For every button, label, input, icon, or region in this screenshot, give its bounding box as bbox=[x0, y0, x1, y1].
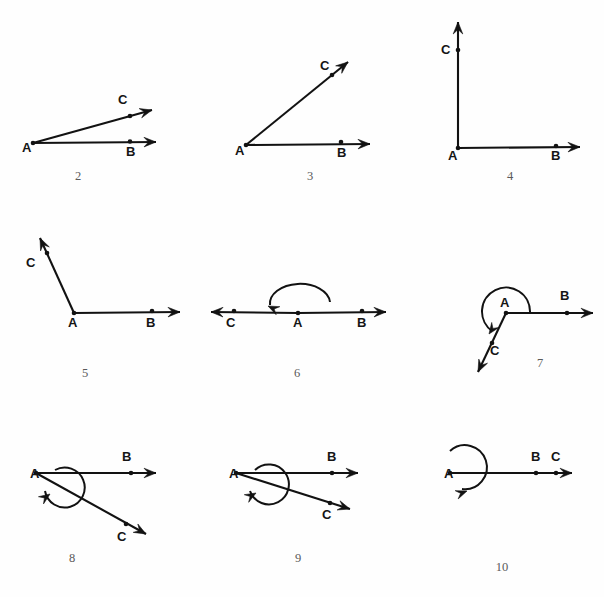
figure-2: BCA2 bbox=[22, 92, 156, 183]
point-C-dot bbox=[124, 522, 129, 527]
figure-7: BCA7 bbox=[478, 288, 593, 372]
label-point-B: B bbox=[357, 315, 366, 330]
label-vertex-A: A bbox=[30, 466, 40, 481]
label-point-B: B bbox=[531, 449, 540, 464]
label-vertex-A: A bbox=[500, 295, 510, 310]
figure-number-caption: 7 bbox=[537, 356, 543, 370]
label-point-C: C bbox=[226, 315, 236, 330]
point-C-dot bbox=[554, 471, 559, 476]
label-point-C: C bbox=[26, 255, 36, 270]
label-point-C: C bbox=[322, 507, 332, 522]
worksheet-page: BCA2BCA3BCA4BCA5BCA6BCA7BCA8BCA9BCA10 bbox=[0, 0, 604, 597]
label-point-B: B bbox=[146, 315, 155, 330]
label-point-B: B bbox=[337, 145, 346, 160]
label-vertex-A: A bbox=[444, 466, 454, 481]
figure-number-caption: 4 bbox=[507, 169, 514, 183]
label-point-C: C bbox=[118, 92, 128, 107]
figure-number-caption: 9 bbox=[295, 551, 301, 565]
point-C-dot bbox=[330, 73, 335, 78]
point-C-dot bbox=[328, 501, 333, 506]
label-point-C: C bbox=[551, 449, 561, 464]
label-vertex-A: A bbox=[68, 315, 78, 330]
figure-number-caption: 6 bbox=[294, 366, 300, 380]
figure-9: BCA9 bbox=[229, 449, 358, 565]
label-vertex-A: A bbox=[22, 140, 32, 155]
ray-AC bbox=[33, 110, 152, 143]
point-C-dot bbox=[232, 309, 237, 314]
figure-3: BCA3 bbox=[235, 58, 370, 183]
ray-AB bbox=[298, 312, 386, 313]
ray-AC bbox=[236, 473, 350, 509]
ray-AB bbox=[246, 144, 370, 145]
label-vertex-A: A bbox=[293, 315, 303, 330]
label-point-C: C bbox=[490, 343, 500, 358]
label-point-B: B bbox=[560, 288, 569, 303]
label-vertex-A: A bbox=[235, 143, 245, 158]
point-B-dot bbox=[129, 471, 134, 476]
figure-number-caption: 8 bbox=[69, 551, 75, 565]
label-point-B: B bbox=[327, 449, 336, 464]
figure-number-caption: 10 bbox=[496, 560, 509, 574]
ray-AC bbox=[211, 312, 298, 313]
point-B-dot bbox=[534, 471, 539, 476]
point-B-dot bbox=[565, 311, 570, 316]
point-B-dot bbox=[339, 140, 344, 145]
full-rotation-arc-arrowhead bbox=[455, 491, 467, 499]
straight-angle-arc bbox=[270, 284, 330, 305]
point-B-dot bbox=[330, 471, 335, 476]
figures-svg: BCA2BCA3BCA4BCA5BCA6BCA7BCA8BCA9BCA10 bbox=[0, 0, 604, 597]
figure-10: BCA10 bbox=[444, 445, 572, 574]
figure-6: BCA6 bbox=[211, 284, 386, 380]
point-B-dot bbox=[360, 309, 365, 314]
full-rotation-arc bbox=[450, 445, 487, 489]
label-vertex-A: A bbox=[229, 466, 239, 481]
point-C-dot bbox=[456, 48, 461, 53]
label-point-C: C bbox=[117, 529, 127, 544]
label-point-C: C bbox=[441, 42, 451, 57]
label-point-B: B bbox=[551, 148, 560, 163]
ray-AC bbox=[40, 238, 74, 313]
ray-AB bbox=[33, 142, 156, 143]
point-C-dot bbox=[45, 251, 50, 256]
figure-number-caption: 5 bbox=[82, 366, 88, 380]
ray-AB bbox=[74, 312, 180, 313]
label-point-C: C bbox=[320, 58, 330, 73]
figure-number-caption: 2 bbox=[75, 169, 81, 183]
ray-AB bbox=[458, 147, 580, 148]
label-point-B: B bbox=[122, 449, 131, 464]
figure-5: BCA5 bbox=[26, 238, 180, 380]
vertex-A-dot bbox=[504, 311, 509, 316]
label-point-B: B bbox=[126, 144, 135, 159]
point-B-dot bbox=[150, 309, 155, 314]
label-vertex-A: A bbox=[448, 148, 458, 163]
figure-number-caption: 3 bbox=[307, 169, 313, 183]
figure-4: BCA4 bbox=[441, 22, 580, 183]
point-C-dot bbox=[128, 114, 133, 119]
figure-8: BCA8 bbox=[30, 449, 156, 565]
